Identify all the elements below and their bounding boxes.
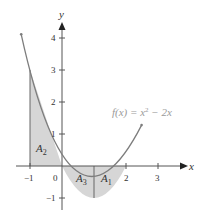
y-tick-label-neg1: −1 (46, 193, 56, 203)
x-tick-label-0: 0 (53, 173, 58, 183)
y-tick-label-2: 2 (51, 97, 56, 107)
y-tick-label-1: 1 (51, 129, 56, 139)
x-tick-label-neg1: −1 (24, 173, 34, 183)
function-graph: y x −1 0 2 3 4 3 2 1 −1 A2 A3 A1 f(x) = … (0, 0, 201, 215)
function-label: f(x) = x2 − 2x (112, 106, 172, 119)
x-axis-arrow-icon (180, 163, 188, 170)
y-tick-label-3: 3 (51, 65, 56, 75)
y-axis-label: y (58, 8, 64, 20)
x-tick-label-2: 2 (124, 173, 129, 183)
y-tick-label-4: 4 (51, 33, 56, 43)
x-axis-label: x (188, 160, 194, 172)
y-axis-arrow-icon (59, 22, 66, 30)
x-tick-label-3: 3 (155, 173, 160, 183)
curve-end-dot (140, 124, 143, 127)
curve-start-dot (20, 33, 23, 36)
